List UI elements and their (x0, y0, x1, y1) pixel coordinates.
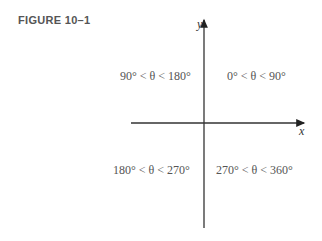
quadrant-iv-label: 270° < θ < 360° (216, 163, 293, 177)
quadrant-ii-label: 90° < θ < 180° (120, 69, 191, 83)
x-axis-label: x (298, 124, 305, 138)
y-axis-label: y (196, 17, 203, 31)
quadrant-i-label: 0° < θ < 90° (227, 69, 286, 83)
quadrant-iii-label: 180° < θ < 270° (113, 163, 190, 177)
coordinate-plane: y x 90° < θ < 180° 0° < θ < 90° 180° < θ… (0, 0, 322, 241)
